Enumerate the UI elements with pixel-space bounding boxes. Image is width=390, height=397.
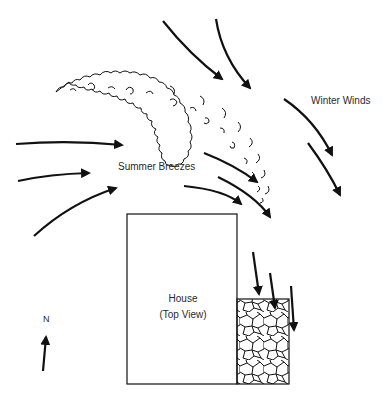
windbreak-tree-line-icon [56, 71, 269, 203]
deflected-arrow-1 [204, 153, 257, 182]
summer-arrow-1 [16, 142, 122, 145]
patio-arrow-1 [253, 252, 259, 294]
summer-breezes-label: Summer Breezes [118, 161, 195, 172]
north-label: N [43, 314, 50, 324]
north-arrow-icon [43, 337, 46, 371]
windbreak-diagram [0, 0, 390, 397]
flagstone-patio [237, 299, 289, 384]
winter-arrow-1 [163, 21, 222, 79]
house-label-line2: (Top View) [147, 307, 219, 323]
summer-arrow-3 [34, 188, 116, 236]
house-label-line1: House [147, 291, 219, 307]
patio-arrow-3 [291, 286, 294, 330]
house-label: House (Top View) [147, 291, 219, 323]
winter-arrow-4 [308, 143, 340, 195]
deflected-arrow-3 [218, 177, 270, 217]
winter-arrow-3 [284, 99, 332, 155]
deflected-arrow-2 [184, 186, 241, 204]
winter-winds-label: Winter Winds [311, 95, 370, 106]
summer-arrow-2 [18, 173, 89, 181]
